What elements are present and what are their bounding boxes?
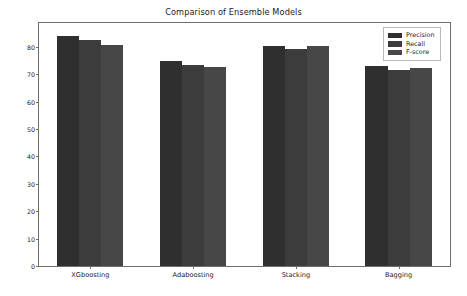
y-axis-tick-mark (36, 239, 39, 240)
legend-label: Recall (406, 40, 425, 49)
bar (365, 66, 387, 266)
bar (57, 36, 79, 266)
x-axis-tick-mark (296, 266, 297, 269)
x-axis-tick-mark (193, 266, 194, 269)
y-axis-tick-mark (36, 129, 39, 130)
chart-title: Comparison of Ensemble Models (0, 7, 467, 17)
x-axis-tick-label: Bagging (385, 271, 412, 279)
chart-legend: PrecisionRecallF-score (383, 27, 441, 61)
legend-swatch-icon (388, 33, 402, 39)
y-axis-tick-mark (36, 211, 39, 212)
bar (307, 46, 329, 266)
legend-label: Precision (406, 31, 435, 40)
bar (410, 68, 432, 266)
y-axis-tick-mark (36, 184, 39, 185)
bar (182, 65, 204, 266)
x-axis-tick-mark (90, 266, 91, 269)
x-axis-tick-label: Stacking (282, 271, 310, 279)
bar (101, 45, 123, 266)
legend-item: Recall (388, 40, 435, 49)
bar (204, 67, 226, 266)
y-axis-tick-mark (36, 74, 39, 75)
x-axis-tick-label: Adaboosting (173, 271, 214, 279)
legend-item: F-score (388, 48, 435, 57)
legend-swatch-icon (388, 41, 402, 47)
legend-label: F-score (406, 48, 429, 57)
x-axis-tick-label: XGboosting (71, 271, 109, 279)
legend-swatch-icon (388, 50, 402, 56)
y-axis-tick-mark (36, 266, 39, 267)
legend-item: Precision (388, 31, 435, 40)
chart-figure: Comparison of Ensemble Models Performanc… (0, 0, 467, 296)
bar (285, 49, 307, 266)
bar (79, 40, 101, 266)
bar (388, 70, 410, 266)
x-axis-tick-mark (399, 266, 400, 269)
y-axis-tick-mark (36, 156, 39, 157)
y-axis-tick-mark (36, 47, 39, 48)
y-axis-tick-mark (36, 102, 39, 103)
bar (160, 61, 182, 266)
bar (263, 46, 285, 266)
